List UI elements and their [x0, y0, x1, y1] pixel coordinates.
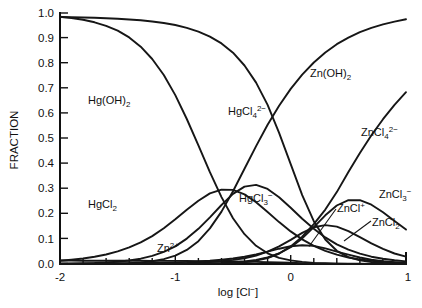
x-tick-label-0: -2 — [55, 271, 65, 283]
y-tick-label-4: 0.4 — [38, 157, 55, 169]
y-tick-label-2: 0.2 — [38, 207, 54, 219]
x-tick-label-3: 1 — [405, 271, 411, 283]
y-axis-title: FRACTION — [8, 111, 20, 170]
series-label-hgcl3-minus: HgCl3− — [239, 191, 273, 207]
x-axis-title-main: log [Cl — [218, 286, 251, 298]
series-label-zn-2plus: Zn2+ — [157, 241, 179, 254]
series-label-zncl2: ZnCl2 — [372, 216, 400, 231]
x-axis-title: log [Cl−] — [218, 285, 258, 298]
axes-frame — [60, 13, 406, 264]
x-axis-title-tail: ] — [255, 286, 258, 298]
y-tick-label-3: 0.3 — [38, 182, 54, 194]
series-label-zncl-plus: ZnCl+ — [337, 201, 365, 214]
y-tick-label-1: 0.1 — [38, 233, 54, 245]
x-tick-label-2: 0 — [287, 271, 293, 283]
y-tick-label-7: 0.7 — [38, 82, 54, 94]
figure-root: 0.0 0.1 0.2 0.3 0.4 0.5 0.6 0.7 0.8 0.9 … — [0, 0, 422, 308]
series-label-zncl4-2minus: ZnCl42− — [361, 125, 398, 141]
curve-group — [60, 17, 406, 264]
curve-zn-oh-2 — [60, 17, 406, 264]
curve-zncl4-2minus — [60, 92, 406, 264]
y-tick-label-0: 0.0 — [38, 258, 54, 270]
y-axis-ticks — [60, 13, 68, 264]
curve-hgcl4-2minus — [60, 19, 406, 264]
series-label-hgcl2: HgCl2 — [88, 198, 117, 213]
series-label-zn-oh-2: Zn(OH)2 — [310, 67, 352, 82]
y-tick-label-6: 0.6 — [38, 107, 54, 119]
y-tick-label-9: 0.9 — [38, 32, 54, 44]
y-tick-label-5: 0.5 — [38, 132, 54, 144]
curve-hgcl3-minus — [60, 185, 406, 264]
series-label-hg-oh-2: Hg(OH)2 — [88, 94, 131, 109]
series-label-hgcl4-2minus: HgCl42− — [228, 104, 266, 120]
x-tick-label-1: -1 — [170, 271, 180, 283]
y-tick-label-8: 0.8 — [38, 57, 54, 69]
series-annotations: Hg(OH)2 HgCl42− HgCl2 HgCl3− Zn(OH)2 ZnC… — [88, 67, 412, 254]
y-tick-label-10: 1.0 — [38, 7, 54, 19]
tick-labels: 0.0 0.1 0.2 0.3 0.4 0.5 0.6 0.7 0.8 0.9 … — [38, 7, 411, 283]
series-label-zncl3-minus: ZnCl3− — [379, 187, 412, 203]
speciation-chart: 0.0 0.1 0.2 0.3 0.4 0.5 0.6 0.7 0.8 0.9 … — [0, 0, 422, 308]
